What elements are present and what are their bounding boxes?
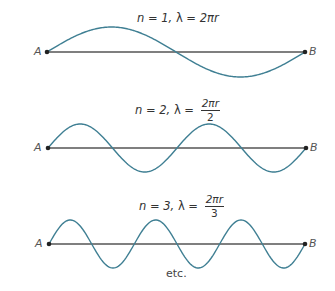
diagram-n2 [46, 124, 309, 172]
fraction-numerator: 2πr [201, 98, 220, 111]
label-b-n2: B [310, 142, 318, 153]
point-b-n2 [304, 146, 309, 151]
lambda-fraction: 2πr3 [205, 194, 224, 218]
fraction-numerator: 2πr [205, 194, 224, 207]
point-a-n3 [47, 242, 52, 247]
wave-figures [0, 0, 335, 291]
label-a-n1: A [34, 46, 42, 57]
lambda-fraction: 2πr2 [201, 98, 220, 122]
n-label: n = 2, [135, 103, 174, 117]
fraction-denominator: 3 [205, 207, 224, 219]
n-label: n = 1, [137, 11, 176, 25]
point-a-n1 [45, 50, 50, 55]
lambda-label: λ = [178, 199, 202, 213]
equation-n2: n = 2, λ = 2πr2 [135, 98, 220, 122]
lambda-label: λ = [176, 11, 200, 25]
lambda-value: 2πr [200, 11, 219, 25]
equation-n3: n = 3, λ = 2πr3 [139, 194, 224, 218]
equation-n1: n = 1, λ = 2πr [137, 13, 219, 25]
label-a-n3: A [35, 238, 43, 249]
diagram-n1 [45, 27, 308, 77]
label-a-n2: A [34, 142, 42, 153]
point-b-n3 [303, 242, 308, 247]
standing-wave-diagram: n = 1, λ = 2πr A B n = 2, λ = 2πr2 A B n… [0, 0, 335, 291]
label-b-n1: B [309, 46, 317, 57]
lambda-label: λ = [174, 103, 198, 117]
fraction-denominator: 2 [201, 111, 220, 123]
diagram-n3 [47, 220, 308, 268]
point-a-n2 [46, 146, 51, 151]
label-b-n3: B [309, 238, 317, 249]
point-b-n1 [303, 50, 308, 55]
etc-label: etc. [166, 268, 187, 279]
n-label: n = 3, [139, 199, 178, 213]
